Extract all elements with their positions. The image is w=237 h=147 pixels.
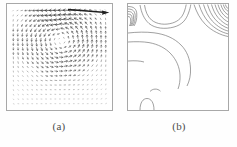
panel-b-contour-plot xyxy=(127,3,229,111)
contour-plot-svg xyxy=(127,3,229,111)
panel-b-frame xyxy=(128,4,229,111)
quiver-plot-svg xyxy=(6,3,113,111)
caption-panel-b: (b) xyxy=(154,120,204,132)
caption-panel-a: (a) xyxy=(34,120,84,132)
figure-container: (a) (b) xyxy=(0,0,237,147)
panel-a-quiver-plot xyxy=(6,3,113,111)
